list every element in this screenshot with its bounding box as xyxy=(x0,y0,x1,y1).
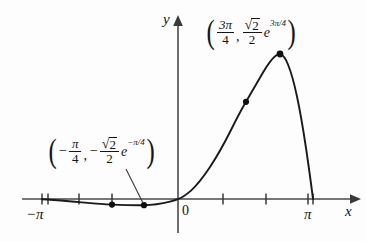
point-local-max xyxy=(277,51,284,58)
max-label-open-paren: ( xyxy=(206,19,214,45)
min-point-label: ( − π 4 , − √ 2 2 e−π/4 ) xyxy=(47,137,156,165)
min-label-coef-sign: − xyxy=(90,144,98,158)
y-axis-arrowhead xyxy=(173,15,183,26)
point-inflection-right xyxy=(243,99,249,105)
point-inflection-left xyxy=(109,202,115,208)
max-label-coefficient: √ 2 2 xyxy=(243,18,262,46)
max-label-comma: , xyxy=(236,30,240,46)
x-tick-label-neg-pi: −π xyxy=(26,206,44,223)
min-label-coefficient: √ 2 2 xyxy=(100,137,119,165)
x-tick-label-pi: π xyxy=(304,206,312,223)
max-label-x-fraction: 3π 4 xyxy=(217,18,234,46)
min-label-x-sign: − xyxy=(59,144,67,158)
point-local-min xyxy=(141,202,147,208)
min-label-sqrt: √ 2 xyxy=(102,137,117,151)
min-label-open-paren: ( xyxy=(48,138,56,164)
max-label-sqrt: √ 2 xyxy=(245,18,260,32)
y-axis-label: y xyxy=(163,11,170,28)
math-figure: ( 3π 4 , √ 2 2 e3π/4 ) ( − xyxy=(0,0,366,241)
min-label-exponential: e−π/4 xyxy=(121,143,145,159)
min-label-x-fraction: π 4 xyxy=(69,137,82,165)
max-label-exponential: e3π/4 xyxy=(264,24,286,40)
min-label-comma: , xyxy=(83,149,87,165)
max-point-label: ( 3π 4 , √ 2 2 e3π/4 ) xyxy=(205,18,297,46)
max-label-close-paren: ) xyxy=(287,19,295,45)
min-label-close-paren: ) xyxy=(146,138,154,164)
min-label-leader-line xyxy=(126,169,143,203)
origin-label: 0 xyxy=(182,203,189,219)
x-axis-label: x xyxy=(345,203,352,220)
